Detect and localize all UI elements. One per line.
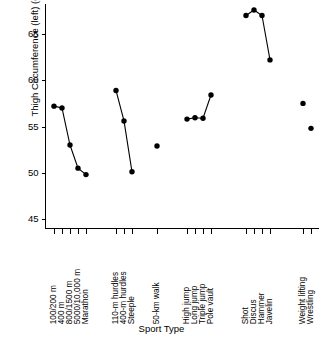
- data-point: [67, 142, 72, 147]
- data-point: [243, 13, 248, 18]
- data-point: [200, 115, 205, 120]
- group-connector-track-running: [54, 106, 86, 174]
- x-category-label: 50-km walk: [152, 282, 160, 324]
- x-tick-labels: 100/200 m400 m800/1500 m5000/10,000 mMar…: [0, 232, 323, 324]
- data-point: [59, 105, 64, 110]
- y-axis-title: Thigh Circumference (left) (cm): [30, 0, 40, 136]
- chart-page: 4550556065 Thigh Circumference (left) (c…: [0, 0, 323, 342]
- x-category-label: Pole vault: [206, 288, 214, 324]
- data-point: [208, 92, 213, 97]
- data-point: [192, 115, 197, 120]
- series-connector-lines: [54, 10, 270, 175]
- data-point: [113, 88, 118, 93]
- group-connector-throws: [246, 10, 270, 60]
- data-point: [129, 169, 134, 174]
- x-category-label: Wrestling: [306, 290, 314, 324]
- x-axis-title: Sport Type: [0, 324, 323, 334]
- data-point: [154, 143, 159, 148]
- y-tick-label: 50: [28, 167, 39, 178]
- data-point: [83, 172, 88, 177]
- x-category-label: Marathon: [81, 289, 89, 324]
- x-category-label: Steeple: [127, 296, 135, 324]
- group-connector-hurdles-steeple: [116, 90, 132, 171]
- data-point: [75, 165, 80, 170]
- group-connector-jumps: [187, 95, 211, 119]
- data-point: [308, 126, 313, 131]
- data-point: [121, 118, 126, 123]
- y-tick-marks: [42, 35, 46, 220]
- data-point: [184, 116, 189, 121]
- data-point: [300, 101, 305, 106]
- data-point: [51, 103, 56, 108]
- y-tick-label: 45: [28, 213, 39, 224]
- series-data-points: [51, 7, 313, 177]
- data-point: [259, 13, 264, 18]
- x-category-label: Javelin: [265, 298, 273, 324]
- data-point: [251, 7, 256, 12]
- data-point: [267, 57, 272, 62]
